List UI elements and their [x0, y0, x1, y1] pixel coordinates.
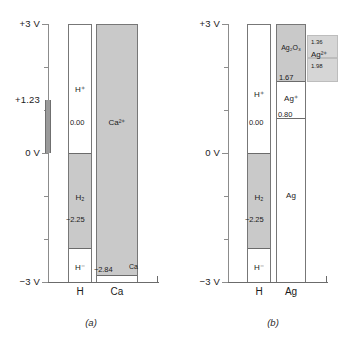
baseline-b [228, 282, 328, 283]
label-b-ag-metal: Ag [277, 191, 305, 200]
caption-b: (b) [253, 317, 293, 328]
column-b-hydrogen: H⁺ H₂ H⁻ [247, 24, 271, 282]
column-name-a-ca: Ca [99, 286, 135, 297]
axis-b-tick-2 [224, 67, 229, 68]
label-a-ca-2plus: Ca²⁺ [97, 118, 137, 127]
label-b-ag-plus: Ag⁺ [277, 94, 305, 103]
caption-a: (a) [71, 317, 111, 328]
segment-b-ag-metal [277, 119, 305, 282]
label-b-h2: H₂ [248, 193, 270, 202]
baseline-b-endcap [326, 276, 327, 283]
column-a-hydrogen: H⁺ H₂ H⁻ [68, 24, 92, 282]
axis-a-tick-minus1 [44, 196, 49, 197]
axis-b-tick-1 [224, 110, 229, 111]
axis-b-label-top: +3 V [181, 19, 220, 29]
axis-a-tick-2 [44, 67, 49, 68]
label-a-h-plus: H⁺ [69, 85, 91, 94]
column-a-calcium: Ca²⁺ [96, 24, 138, 282]
axis-b-tick-minus2 [224, 239, 229, 240]
value-b-ag-167: 1.67 [279, 74, 293, 82]
segment-b-h-plus [248, 25, 270, 153]
axis-a-label-top: +3 V [0, 19, 40, 29]
value-b-h-000: 0.00 [249, 119, 263, 127]
axis-a-label-bottom: −3 V [0, 277, 40, 287]
axis-a-tick-3 [42, 24, 49, 25]
label-b-h-plus: H⁺ [248, 90, 270, 99]
label-b-ag2o3: Ag₂O₃ [277, 43, 305, 52]
value-a-h-000: 0.00 [70, 119, 84, 127]
value-b-h-225: −2.25 [245, 216, 263, 224]
axis-a-tick-minus2 [44, 239, 49, 240]
axis-a-label-special: +1.23 [0, 95, 40, 105]
panel-a: +3 V +1.23 0 V −3 V H⁺ H₂ H⁻ 0.00 −2.25 … [0, 0, 182, 342]
value-b-ag-080: 0.80 [278, 111, 292, 119]
column-name-a-h: H [62, 286, 98, 297]
value-a-ca-284: −2.84 [94, 266, 112, 274]
column-name-b-ag: Ag [273, 286, 309, 297]
axis-a-water-stability-marker [45, 100, 51, 153]
panel-b: +3 V 0 V −3 V H⁺ H₂ H⁻ 0.00 −2.25 Ag₂O₃ … [181, 0, 363, 342]
label-b-h-minus: H⁻ [248, 263, 270, 272]
axis-b-label-bottom: −3 V [181, 277, 220, 287]
label-a-h2: H₂ [69, 193, 91, 202]
baseline-a-endcap [157, 276, 158, 283]
label-a-h-minus: H⁻ [69, 263, 91, 272]
axis-a-label-zero: 0 V [0, 148, 40, 158]
axis-b-tick-minus1 [224, 196, 229, 197]
segment-a-ca-2plus [97, 25, 137, 276]
axis-b-tick-3 [222, 24, 229, 25]
column-b-silver: Ag₂O₃ Ag⁺ Ag [276, 24, 306, 282]
axis-a-tick-0 [42, 153, 49, 154]
label-a-ca-metal: Ca [129, 263, 138, 271]
value-b-ag2plus-lower: 1.98 [311, 62, 323, 71]
axis-b-tick-0 [222, 153, 229, 154]
axis-b-label-zero: 0 V [181, 148, 220, 158]
baseline-a [48, 282, 159, 283]
potential-diagram-figure: +3 V +1.23 0 V −3 V H⁺ H₂ H⁻ 0.00 −2.25 … [0, 0, 363, 342]
value-a-h-225: −2.25 [66, 216, 84, 224]
column-name-b-h: H [241, 286, 277, 297]
value-b-ag2plus-upper: 1.36 [311, 38, 323, 47]
label-b-ag-2plus: Ag²⁺ [311, 50, 327, 59]
